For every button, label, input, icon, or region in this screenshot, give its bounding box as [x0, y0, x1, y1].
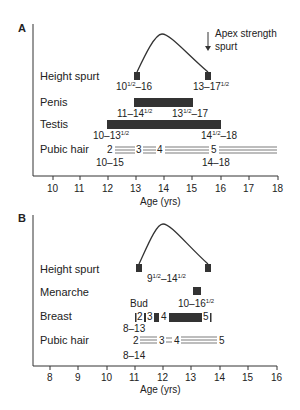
panel-b-breast-label: Breast — [40, 310, 72, 322]
panel-a-height-label: Height spurt — [40, 70, 99, 82]
panel-a-pubic-stage-4: 4 — [157, 144, 163, 155]
panel-a-tick-12: 12 — [102, 183, 113, 194]
panel-a-height-end-range: 13–171/2 — [193, 81, 229, 92]
breast-stage3-bar — [154, 313, 159, 322]
panel-b-pubic-stage-4: 4 — [174, 335, 180, 346]
apex-label-line2: spurt — [215, 41, 237, 52]
breast-stage-2: 2 — [137, 311, 143, 322]
panel-b-menarche-label: Menarche — [40, 286, 89, 298]
panel-b-pubic-stage-5: 5 — [219, 335, 225, 346]
panel-a-penis-label: Penis — [40, 96, 68, 108]
panel-a-pubic-stage-2: 2 — [107, 144, 113, 155]
apex-label-line1: Apex strength — [215, 28, 277, 39]
panel-a-height-start-marker — [134, 72, 140, 80]
panel-a-pubic-end-range: 14–18 — [202, 157, 230, 168]
panel-a-tick-16: 16 — [215, 183, 226, 194]
breast-stage-5: 5 — [203, 311, 209, 322]
panel-b-label: B — [18, 212, 26, 224]
panel-a-tick-10: 10 — [47, 183, 58, 194]
panel-a-pubic-stage-5: 5 — [211, 144, 217, 155]
panel-b-x-axis-label: Age (yrs) — [140, 384, 181, 395]
breast-tick-2 — [144, 313, 146, 322]
panel-b-tick-12: 12 — [157, 372, 168, 383]
panel-b-pubic-stage-3: 3 — [159, 335, 165, 346]
panel-b-menarche-marker — [193, 287, 201, 295]
panel-a-height-end-marker — [205, 72, 211, 80]
panel-b-height-start-marker — [136, 264, 142, 272]
panel-b-ticks — [50, 366, 277, 370]
panel-b-height-curve — [139, 224, 208, 264]
panel-b-tick-10: 10 — [101, 372, 112, 383]
panel-a-testis-label: Testis — [40, 118, 68, 130]
panel-b-menarche-range: 10–161/2 — [178, 298, 214, 309]
panel-a-pubic-stage-3: 3 — [136, 144, 142, 155]
panel-b-breast-range: 8–13 — [123, 323, 145, 334]
panel-a-testis-bar — [107, 120, 221, 129]
panel-b-pubic-range: 8–14 — [123, 350, 145, 361]
panel-b-height-label: Height spurt — [40, 263, 99, 275]
panel-a-tick-11: 11 — [74, 183, 84, 194]
panel-a-testis-end-range: 141/2–18 — [201, 130, 237, 141]
panel-b-height-end-marker — [205, 264, 211, 272]
breast-stage-3: 3 — [147, 311, 153, 322]
panel-b-height-range: 91/2–141/2 — [147, 273, 186, 284]
panel-a-penis-end-range: 131/2–17 — [172, 108, 208, 119]
panel-a-tick-14: 14 — [158, 183, 169, 194]
panel-b-tick-8: 8 — [47, 372, 53, 383]
panel-b-bud-label: Bud — [130, 298, 148, 309]
panel-a-tick-15: 15 — [186, 183, 197, 194]
panel-a-ticks — [53, 176, 278, 180]
panel-b-pubic-label: Pubic hair — [40, 334, 89, 346]
panel-b-tick-11: 11 — [129, 372, 139, 383]
panel-b-tick-15: 15 — [242, 372, 253, 383]
panel-a-tick-13: 13 — [130, 183, 141, 194]
panel-a-label: A — [18, 22, 26, 34]
panel-a-tick-17: 17 — [243, 183, 254, 194]
breast-tick-5 — [210, 313, 212, 322]
panel-a-testis-start-range: 10–131/2 — [93, 130, 129, 141]
panel-a-x-axis-label: Age (yrs) — [140, 196, 181, 207]
panel-a-tick-18: 18 — [272, 183, 283, 194]
panel-b-tick-9: 9 — [75, 372, 81, 383]
panel-b-tick-14: 14 — [214, 372, 225, 383]
panel-b-tick-16: 16 — [271, 372, 282, 383]
breast-stage4-bar — [169, 313, 202, 322]
panel-a-height-start-range: 101/2–16 — [116, 81, 152, 92]
panel-b-pubic-stage-2: 2 — [133, 335, 139, 346]
panel-a-pubic-start-range: 10–15 — [96, 157, 124, 168]
panel-a-pubic-label: Pubic hair — [40, 143, 89, 155]
panel-a-penis-bar — [134, 98, 193, 107]
breast-stage-4: 4 — [161, 311, 167, 322]
panel-a-penis-start-range: 11–141/2 — [117, 108, 152, 119]
panel-a-height-curve — [137, 34, 208, 72]
panel-b-tick-13: 13 — [185, 372, 196, 383]
apex-arrow-head — [205, 46, 211, 51]
